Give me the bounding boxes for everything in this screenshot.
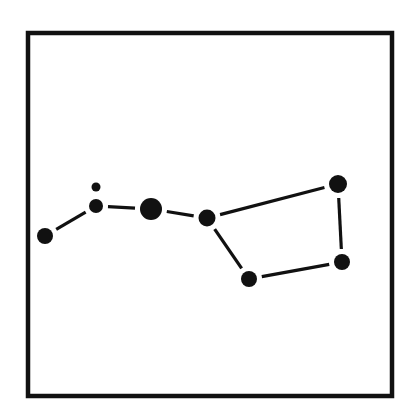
star-alioth bbox=[140, 198, 162, 220]
link-mizar-alioth bbox=[108, 207, 135, 208]
star-alcor bbox=[92, 183, 101, 192]
star-alkaid bbox=[37, 228, 53, 244]
star-merak bbox=[334, 254, 350, 270]
background bbox=[0, 0, 417, 415]
constellation-diagram bbox=[0, 0, 417, 415]
star-megrez bbox=[199, 210, 216, 227]
star-phecda bbox=[241, 271, 257, 287]
star-dubhe bbox=[329, 175, 347, 193]
star-mizar bbox=[89, 199, 103, 213]
